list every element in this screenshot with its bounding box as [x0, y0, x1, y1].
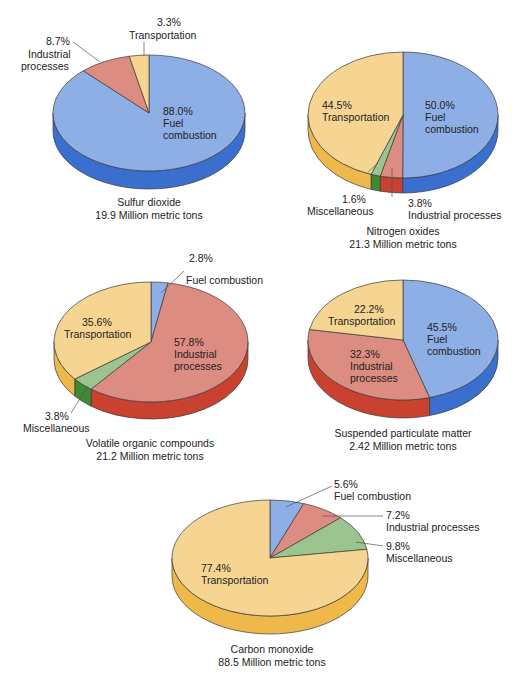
co-caption-total: 88.5 Million metric tons — [218, 656, 325, 668]
nox-misc-pct: 1.6% — [342, 193, 366, 205]
nox-caption-total: 21.3 Million metric tons — [349, 238, 456, 250]
nox-ind-pct: 3.8% — [408, 197, 432, 209]
so2-fuel-l2: combustion — [163, 129, 217, 141]
co-ind-pct: 7.2% — [386, 509, 410, 521]
spm-trans-pct: 22.2% — [354, 303, 384, 315]
spm-ind-pct: 32.3% — [350, 348, 380, 360]
voc-misc-label: Miscellaneous — [23, 422, 90, 434]
co-fuel-leader — [286, 486, 332, 507]
voc-trans-label: Transportation — [64, 328, 131, 340]
nox-side-miscellaneous — [371, 174, 380, 191]
so2-ind-l2: processes — [21, 60, 69, 72]
so2-pie — [53, 55, 245, 189]
co-caption-title: Carbon monoxide — [231, 643, 314, 655]
co-ind-label: Industrial processes — [386, 521, 479, 533]
nox-trans-label: Transportation — [322, 111, 389, 123]
nox-trans-pct: 44.5% — [322, 99, 352, 111]
spm-caption-total: 2.42 Million metric tons — [349, 440, 456, 452]
so2-caption-title: Sulfur dioxide — [117, 196, 181, 208]
co-fuel-label: Fuel combustion — [334, 490, 411, 502]
nox-fuel-pct: 50.0% — [425, 99, 455, 111]
so2-ind-leader — [73, 42, 100, 62]
co-misc-label: Miscellaneous — [386, 552, 453, 564]
voc-pie — [54, 282, 248, 419]
voc-misc-pct: 3.8% — [45, 410, 69, 422]
voc-caption-total: 21.2 Million metric tons — [96, 450, 203, 462]
so2-trans-label: Transportation — [129, 29, 196, 41]
nox-fuel-l1: Fuel — [425, 111, 445, 123]
spm-ind-l2: processes — [350, 372, 398, 384]
voc-ind-l1: Industrial — [174, 348, 217, 360]
emissions-pie-charts: 3.3% Transportation 8.7% Industrial proc… — [0, 0, 519, 674]
so2-fuel-l1: Fuel — [163, 117, 183, 129]
voc-ind-l2: processes — [174, 360, 222, 372]
so2-caption-total: 19.9 Million metric tons — [95, 209, 202, 221]
voc-fuel-pct: 2.8% — [189, 252, 213, 264]
voc-ind-pct: 57.8% — [174, 336, 204, 348]
nox-fuel-l2: combustion — [425, 123, 479, 135]
spm-fuel-l1: Fuel — [427, 333, 447, 345]
co-trans-pct: 77.4% — [201, 562, 231, 574]
spm-fuel-pct: 45.5% — [427, 321, 457, 333]
nox-side-industrial_processes — [380, 176, 402, 193]
nox-misc-label: Miscellaneous — [307, 205, 374, 217]
voc-trans-pct: 35.6% — [82, 316, 112, 328]
spm-fuel-l2: combustion — [427, 345, 481, 357]
spm-trans-label: Transportation — [328, 315, 395, 327]
co-fuel-pct: 5.6% — [334, 478, 358, 490]
co-misc-pct: 9.8% — [386, 540, 410, 552]
voc-fuel-label: Fuel combustion — [186, 274, 263, 286]
spm-ind-l1: Industrial — [350, 360, 393, 372]
co-trans-label: Transportation — [201, 574, 268, 586]
so2-ind-pct: 8.7% — [46, 35, 70, 47]
voc-caption-title: Volatile organic compounds — [86, 437, 214, 449]
nox-ind-label: Industrial processes — [408, 209, 501, 221]
so2-trans-pct: 3.3% — [157, 16, 181, 28]
so2-fuel-pct: 88.0% — [163, 105, 193, 117]
spm-caption-title: Suspended particulate matter — [334, 427, 472, 439]
nox-caption-title: Nitrogen oxides — [367, 225, 440, 237]
so2-ind-l1: Industrial — [28, 48, 71, 60]
